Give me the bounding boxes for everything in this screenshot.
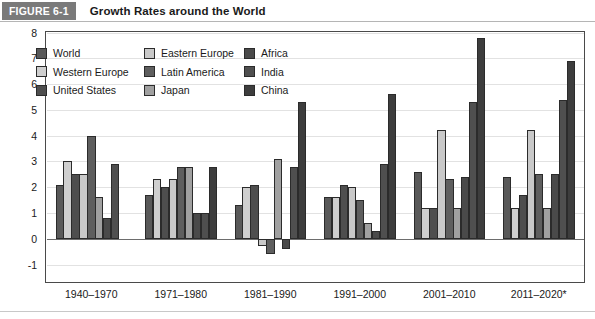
legend-item: United States [36, 81, 144, 100]
legend-item: World [36, 44, 144, 63]
gridline [47, 110, 584, 111]
bar [388, 94, 396, 238]
x-axis: 1940–19701971–19801981–19901991–20002001… [45, 288, 585, 306]
bar [477, 38, 485, 239]
legend-item: Eastern Europe [144, 44, 244, 63]
legend-item: Latin America [144, 63, 244, 82]
x-axis-tick-label: 1971–1980 [154, 288, 207, 300]
legend-label: Africa [261, 47, 288, 59]
bar [209, 167, 217, 239]
y-axis-tick-label: 2 [31, 181, 37, 193]
y-axis-tick-label: 8 [31, 27, 37, 39]
legend-item: India [244, 63, 336, 82]
zero-baseline [47, 239, 584, 240]
figure-number-badge: FIGURE 6-1 [2, 2, 76, 20]
legend-item: Western Europe [36, 63, 144, 82]
bar [250, 185, 258, 239]
legend-swatch-icon [36, 66, 47, 77]
legend-label: India [261, 66, 284, 78]
x-axis-tick-label: 2011–2020* [511, 288, 567, 300]
y-axis-tick-label: 0 [31, 233, 37, 245]
bar [567, 61, 575, 239]
legend-item: Africa [244, 44, 336, 63]
legend-swatch-icon [144, 85, 155, 96]
x-axis-tick-label: 2001–2010 [423, 288, 476, 300]
bar [298, 102, 306, 239]
legend-item: China [244, 81, 336, 100]
legend-label: Eastern Europe [161, 47, 234, 59]
legend-label: Latin America [161, 66, 225, 78]
gridline [47, 161, 584, 162]
y-axis-tick-label: 4 [31, 130, 37, 142]
legend-label: World [53, 47, 80, 59]
bar [111, 164, 119, 239]
bar [266, 239, 274, 254]
legend-swatch-icon [144, 48, 155, 59]
gridline [47, 136, 584, 137]
legend-swatch-icon [36, 48, 47, 59]
legend-item: Japan [144, 81, 244, 100]
chart-legend: WorldEastern EuropeAfricaWestern EuropeL… [36, 44, 336, 100]
header-divider [0, 21, 595, 22]
bar [282, 239, 290, 249]
legend-label: Western Europe [53, 66, 129, 78]
legend-label: Japan [161, 84, 190, 96]
x-axis-tick-label: 1940–1970 [65, 288, 118, 300]
y-axis-tick-label: 1 [31, 207, 37, 219]
x-axis-tick-label: 1991–2000 [333, 288, 386, 300]
y-axis-tick-label: -1 [28, 259, 37, 271]
legend-swatch-icon [244, 48, 255, 59]
legend-swatch-icon [144, 66, 155, 77]
legend-swatch-icon [36, 85, 47, 96]
legend-swatch-icon [244, 85, 255, 96]
figure-title: Growth Rates around the World [90, 5, 266, 17]
legend-swatch-icon [244, 66, 255, 77]
gridline [47, 33, 584, 34]
legend-label: United States [53, 84, 116, 96]
gridline [47, 265, 584, 266]
y-axis-tick-label: 3 [31, 155, 37, 167]
figure-header: FIGURE 6-1 Growth Rates around the World [0, 0, 595, 22]
legend-label: China [261, 84, 288, 96]
y-axis-tick-label: 5 [31, 104, 37, 116]
bottom-divider [0, 311, 595, 312]
x-axis-tick-label: 1981–1990 [244, 288, 297, 300]
bar [274, 159, 282, 239]
